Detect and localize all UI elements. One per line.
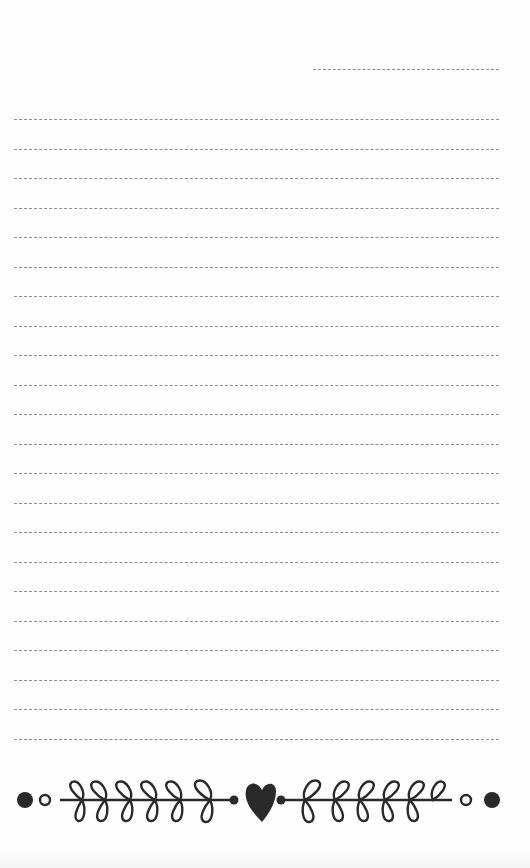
- date-line: [313, 69, 499, 70]
- writing-line: [14, 237, 499, 238]
- heart-icon: [246, 784, 276, 822]
- writing-line: [14, 385, 499, 386]
- writing-line: [14, 650, 499, 651]
- scan-edge: [0, 850, 530, 868]
- writing-line: [14, 680, 499, 681]
- filled-dot-icon: [17, 792, 33, 808]
- writing-line: [14, 414, 499, 415]
- hollow-dot-icon: [461, 795, 471, 805]
- writing-line: [14, 296, 499, 297]
- writing-line: [14, 326, 499, 327]
- writing-line: [14, 503, 499, 504]
- writing-line: [14, 473, 499, 474]
- writing-line: [14, 709, 499, 710]
- writing-line: [14, 267, 499, 268]
- writing-line: [14, 562, 499, 563]
- writing-line: [14, 208, 499, 209]
- filled-dot-icon: [484, 792, 500, 808]
- writing-line: [14, 444, 499, 445]
- writing-line: [14, 532, 499, 533]
- writing-line: [14, 355, 499, 356]
- writing-line: [14, 119, 499, 120]
- writing-line: [14, 739, 499, 740]
- writing-line: [14, 178, 499, 179]
- hollow-dot-icon: [40, 795, 50, 805]
- writing-line: [14, 149, 499, 150]
- writing-line: [14, 621, 499, 622]
- heart-vine-ornament-icon: [0, 770, 530, 830]
- writing-line: [14, 591, 499, 592]
- notepaper-page: [0, 0, 530, 868]
